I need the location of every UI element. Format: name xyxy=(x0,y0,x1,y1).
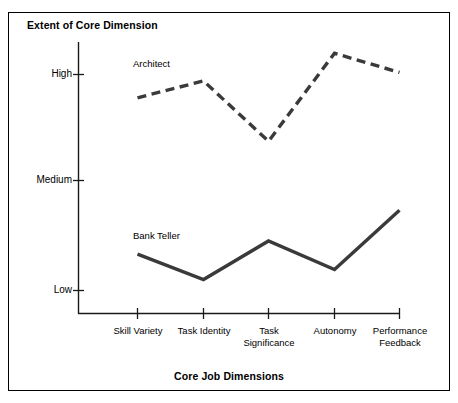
x-tick-label-performance-feedback: Performance Feedback xyxy=(360,325,440,348)
series-line-architect xyxy=(138,53,400,141)
series-label-bank-teller: Bank Teller xyxy=(133,230,180,241)
figure-frame: Extent of Core Dimension High Medium Low… xyxy=(0,0,458,403)
y-tick-label-high: High xyxy=(51,69,72,79)
y-tick-label-medium: Medium xyxy=(36,175,72,185)
series-line-bank-teller xyxy=(138,210,400,279)
series-label-architect: Architect xyxy=(133,58,170,69)
y-tick-label-low: Low xyxy=(54,285,72,295)
x-axis-title: Core Job Dimensions xyxy=(0,370,458,382)
